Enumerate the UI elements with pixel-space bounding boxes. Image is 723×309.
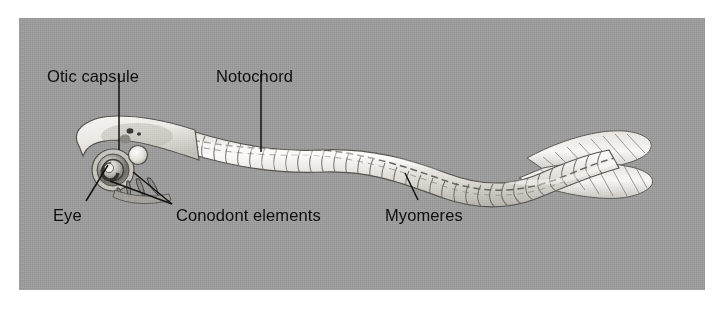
otic-capsule-structure [129, 146, 148, 165]
conodont-animal-illustration [19, 18, 705, 290]
figure-root: Otic capsule Notochord Eye Conodont elem… [0, 0, 723, 309]
label-eye: Eye [53, 207, 82, 224]
head [77, 116, 199, 204]
label-notochord: Notochord [216, 68, 293, 85]
label-otic-capsule: Otic capsule [47, 68, 139, 85]
figure-panel: Otic capsule Notochord Eye Conodont elem… [19, 18, 705, 290]
label-conodont-elements: Conodont elements [176, 207, 321, 224]
label-myomeres: Myomeres [385, 207, 463, 224]
